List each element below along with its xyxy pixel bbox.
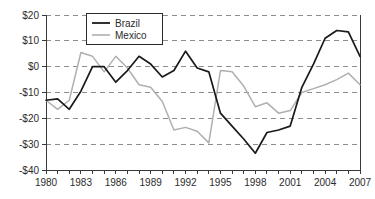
series-line-brazil bbox=[46, 31, 360, 154]
x-tick-label-1995: 1995 bbox=[209, 177, 232, 188]
x-tick-label-1980: 1980 bbox=[35, 177, 58, 188]
line-chart: $20$10$0-$10-$20-$30-$40 198019831986198… bbox=[0, 0, 375, 199]
y-tick-label--30: -$30 bbox=[19, 139, 39, 150]
x-tick-label-1986: 1986 bbox=[105, 177, 128, 188]
y-tick-label-0: $0 bbox=[28, 61, 40, 72]
legend-label-brazil: Brazil bbox=[115, 18, 140, 29]
y-axis-tick-labels: $20$10$0-$10-$20-$30-$40 bbox=[19, 10, 39, 176]
x-tick-label-2007: 2007 bbox=[349, 177, 372, 188]
y-tick-label--10: -$10 bbox=[19, 87, 39, 98]
y-tick-label-10: $10 bbox=[22, 35, 39, 46]
y-tick-label--40: -$40 bbox=[19, 165, 39, 176]
x-tick-label-1989: 1989 bbox=[140, 177, 163, 188]
y-axis-ticks bbox=[42, 15, 46, 170]
x-axis-tick-labels: 1980198319861989199219951998200120042007 bbox=[35, 177, 372, 188]
legend-label-mexico: Mexico bbox=[115, 30, 147, 41]
chart-container: $20$10$0-$10-$20-$30-$40 198019831986198… bbox=[0, 0, 375, 199]
x-tick-label-2001: 2001 bbox=[279, 177, 302, 188]
x-tick-label-1983: 1983 bbox=[70, 177, 93, 188]
y-tick-label--20: -$20 bbox=[19, 113, 39, 124]
x-axis-minor-ticks bbox=[46, 170, 360, 174]
x-tick-label-1992: 1992 bbox=[174, 177, 197, 188]
x-tick-label-1998: 1998 bbox=[244, 177, 267, 188]
y-tick-label-20: $20 bbox=[22, 10, 39, 21]
chart-legend: Brazil Mexico bbox=[86, 13, 162, 44]
x-tick-label-2004: 2004 bbox=[314, 177, 337, 188]
